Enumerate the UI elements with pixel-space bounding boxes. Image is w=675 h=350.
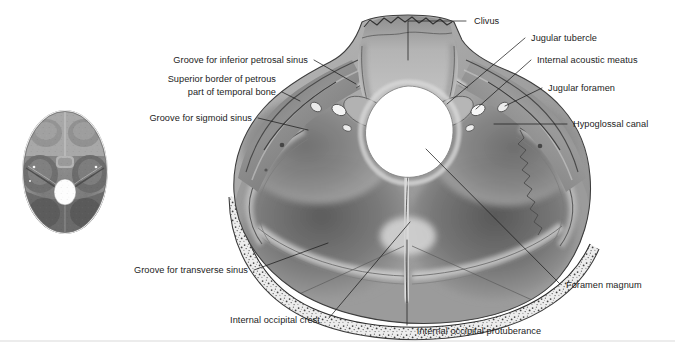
label-foramen-magnum: Foramen magnum	[566, 280, 642, 290]
anatomical-figure: Clivus Jugular tubercle Internal acousti…	[0, 0, 675, 350]
label-internal-occipital-protuberance: Internal occipital protuberance	[417, 326, 541, 336]
label-jugular-tubercle: Jugular tubercle	[531, 33, 597, 43]
label-groove-for-transverse-sinus: Groove for transverse sinus	[134, 265, 248, 275]
label-groove-for-inferior-petrosal-sinus: Groove for inferior petrosal sinus	[173, 55, 308, 65]
label-jugular-foramen: Jugular foramen	[548, 83, 615, 93]
label-internal-occipital-crest: Internal occipital crest	[230, 315, 320, 325]
label-superior-border-of-petrous-line2: part of temporal bone	[188, 87, 276, 97]
orientation-inset-skull-base	[21, 109, 110, 236]
label-internal-acoustic-meatus: Internal acoustic meatus	[537, 55, 638, 65]
label-clivus: Clivus	[474, 16, 500, 26]
label-superior-border-of-petrous-line1: Superior border of petrous	[168, 74, 277, 84]
figure-canvas: Clivus Jugular tubercle Internal acousti…	[0, 0, 675, 350]
label-groove-for-sigmoid-sinus: Groove for sigmoid sinus	[149, 113, 252, 123]
label-hypoglossal-canal: Hypoglossal canal	[573, 119, 648, 129]
